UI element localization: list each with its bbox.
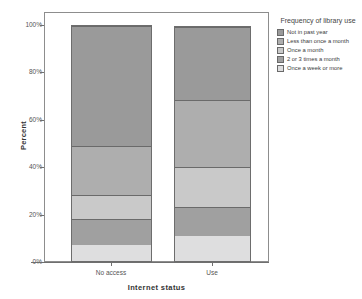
- legend-item-once-a-month[interactable]: Once a month: [277, 46, 361, 54]
- legend-item-once-a-week-or-more[interactable]: Once a week or more: [277, 64, 361, 72]
- y-tick-mark-20: [40, 215, 44, 216]
- bar-segment-no-access-less-than-once-a-month[interactable]: [72, 146, 151, 195]
- bar-use[interactable]: [174, 26, 251, 262]
- x-tick-label-no-access: No access: [76, 269, 146, 276]
- legend-label-2-or-3-times-a-month: 2 or 3 times a month: [287, 55, 340, 63]
- legend-swatch-icon-less-than-once-a-month: [277, 38, 284, 45]
- legend-swatch-icon-not-in-past-year: [277, 29, 284, 36]
- x-axis-title: Internet status: [44, 283, 269, 292]
- bar-segment-no-access-once-a-month[interactable]: [72, 195, 151, 219]
- bar-segment-no-access-2-or-3-times-a-month[interactable]: [72, 219, 151, 245]
- y-tick-label-40: 40%: [8, 164, 42, 171]
- bar-segment-use-once-a-month[interactable]: [175, 167, 250, 207]
- legend-label-once-a-month: Once a month: [287, 46, 323, 54]
- x-tick-mark-use: [212, 262, 213, 266]
- legend-title: Frequency of library use: [277, 16, 359, 25]
- bar-segment-use-not-in-past-year[interactable]: [175, 27, 250, 100]
- y-tick-label-60: 60%: [8, 117, 42, 124]
- x-axis-line: [31, 262, 269, 263]
- legend-swatch-icon-once-a-month: [277, 47, 284, 54]
- legend-swatch-icon-2-or-3-times-a-month: [277, 56, 284, 63]
- plot-area: [45, 25, 268, 262]
- bar-segment-no-access-once-a-week-or-more[interactable]: [72, 245, 151, 261]
- x-tick-mark-no-access: [111, 262, 112, 266]
- y-tick-mark-100: [40, 25, 44, 26]
- legend-item-2-or-3-times-a-month[interactable]: 2 or 3 times a month: [277, 55, 361, 63]
- legend-swatch-icon-once-a-week-or-more: [277, 65, 284, 72]
- bar-segment-no-access-not-in-past-year[interactable]: [72, 26, 151, 146]
- y-tick-label-80: 80%: [8, 69, 42, 76]
- y-tick-label-100: 100%: [8, 22, 42, 29]
- x-tick-label-use: Use: [177, 269, 247, 276]
- bar-no-access[interactable]: [71, 25, 152, 262]
- legend-item-less-than-once-a-month[interactable]: Less than once a month: [277, 37, 361, 45]
- y-tick-mark-80: [40, 72, 44, 73]
- bar-segment-use-2-or-3-times-a-month[interactable]: [175, 207, 250, 236]
- y-tick-label-20: 20%: [8, 212, 42, 219]
- legend-label-not-in-past-year: Not in past year: [287, 28, 328, 36]
- y-axis-ticks: 100% 80% 60% 40% 20% 0%: [0, 0, 42, 299]
- legend-item-not-in-past-year[interactable]: Not in past year: [277, 28, 361, 36]
- legend-label-once-a-week-or-more: Once a week or more: [287, 64, 342, 72]
- bar-segment-use-less-than-once-a-month[interactable]: [175, 100, 250, 168]
- legend-label-less-than-once-a-month: Less than once a month: [287, 37, 349, 45]
- legend: Frequency of library use Not in past yea…: [277, 16, 361, 73]
- y-tick-mark-60: [40, 120, 44, 121]
- y-tick-mark-40: [40, 167, 44, 168]
- stacked-bar-chart: Percent 100% 80% 60% 40% 20% 0%: [0, 0, 362, 299]
- bar-segment-use-once-a-week-or-more[interactable]: [175, 236, 250, 261]
